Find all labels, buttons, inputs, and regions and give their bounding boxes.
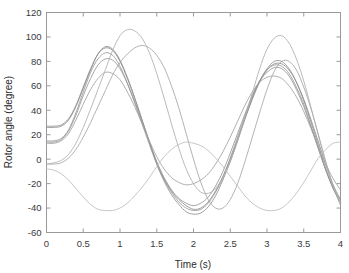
- y-tick-label: 40: [31, 105, 42, 116]
- y-tick-label: 100: [26, 31, 42, 42]
- y-tick-label: 80: [31, 56, 42, 67]
- figure-container: 00.511.522.533.54 -60-40-200204060801001…: [0, 0, 349, 273]
- x-tick-label: 1.5: [150, 238, 163, 249]
- y-tick-label: 0: [36, 154, 41, 165]
- y-tick-label: 20: [31, 129, 42, 140]
- y-axis-label: Rotor angle (degree): [3, 76, 14, 168]
- x-tick-label: 3: [264, 238, 269, 249]
- y-tick-label: -60: [28, 227, 42, 238]
- x-tick-label: 3.5: [297, 238, 310, 249]
- y-tick-label: 60: [31, 80, 42, 91]
- x-tick-label: 4: [338, 238, 343, 249]
- x-tick-label: 2: [191, 238, 196, 249]
- x-tick-label: 0: [44, 238, 49, 249]
- y-tick-label: -20: [28, 178, 42, 189]
- y-tick-label: 120: [26, 7, 42, 18]
- x-tick-label: 1: [117, 238, 122, 249]
- x-axis-tick-labels: 00.511.522.533.54: [44, 238, 343, 249]
- y-tick-label: -40: [28, 202, 42, 213]
- x-axis-label: Time (s): [175, 259, 211, 270]
- x-tick-label: 0.5: [77, 238, 90, 249]
- x-tick-label: 2.5: [224, 238, 237, 249]
- rotor-angle-line-chart: 00.511.522.533.54 -60-40-200204060801001…: [0, 0, 349, 273]
